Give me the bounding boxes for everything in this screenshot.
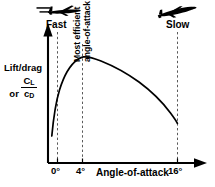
y-axis-label-line1: Lift/drag	[4, 62, 42, 73]
cl-numerator: CL	[21, 75, 36, 88]
cd-denominator: cD	[21, 88, 36, 100]
x-tick-label-0: 0°	[51, 166, 60, 176]
slow-label: Slow	[166, 20, 189, 30]
y-axis-label: Lift/drag or CL cD	[0, 62, 46, 100]
most-efficient-annotation: Most efficient angle-of-attack	[72, 0, 94, 62]
cl-subscript: L	[30, 79, 34, 86]
x-axis-arrowhead	[194, 158, 207, 167]
cd-subscript: D	[29, 92, 34, 99]
y-axis-label-line2: or	[9, 88, 19, 99]
slow-aircraft-icon	[158, 6, 197, 18]
most-efficient-line1: Most efficient	[72, 0, 82, 62]
x-tick-label-4: 4°	[76, 166, 85, 176]
fast-label: Fast	[46, 20, 67, 30]
x-axis-title: Angle-of-attack	[96, 168, 169, 178]
most-efficient-line2: angle-of-attack	[82, 0, 92, 62]
lift-drag-vs-angle-of-attack-figure: Fast Slow Lift/drag or CL cD 0° 4° 16° A…	[0, 0, 215, 187]
cl-cd-ratio: CL cD	[21, 75, 36, 100]
lift-drag-curve	[52, 57, 178, 136]
x-tick-label-16: 16°	[168, 166, 182, 176]
